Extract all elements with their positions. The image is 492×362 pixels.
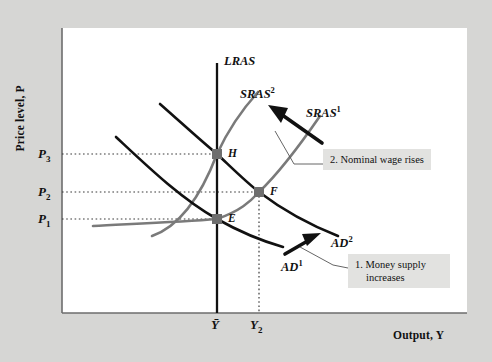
- point-marker-h: [212, 149, 222, 159]
- point-label-e: E: [228, 213, 236, 225]
- y-tick-p1: P1: [38, 212, 50, 229]
- y-tick-p3: P3: [38, 147, 50, 164]
- x-tick-y2: Y2: [250, 318, 262, 335]
- annotation-money-supply-line1: 1. Money supply: [355, 259, 426, 270]
- curve-label-ad2: AD2: [331, 235, 353, 250]
- curve-label-sras2: SRAS2: [240, 86, 275, 101]
- point-label-h: H: [228, 148, 237, 160]
- y-tick-p2: P2: [38, 185, 50, 202]
- x-axis-title: Output, Y: [393, 330, 444, 342]
- figure-container: Price level, P Output, Y P3 P2 P1 Ȳ Y2 …: [0, 0, 492, 362]
- curve-sras2: [152, 92, 258, 236]
- shift-arrow-ad: [285, 233, 321, 254]
- point-marker-f: [254, 187, 264, 197]
- curve-label-ad1: AD1: [281, 259, 303, 274]
- annotation-nominal-wage: 2. Nominal wage rises: [323, 149, 431, 170]
- curve-label-sras1: SRAS1: [306, 105, 341, 120]
- annotation-money-supply-line2: increases: [355, 271, 443, 284]
- x-tick-ybar: Ȳ: [211, 318, 219, 331]
- y-axis-title: Price level, P: [15, 85, 27, 151]
- annotation-nominal-wage-text: 2. Nominal wage rises: [330, 154, 424, 165]
- leader-line-nominal-wage: [275, 131, 323, 164]
- annotation-money-supply: 1. Money supply increases: [348, 254, 450, 288]
- curve-label-lras: LRAS: [224, 55, 255, 68]
- point-marker-e: [212, 214, 222, 224]
- curve-ad2: [160, 104, 338, 236]
- point-label-f: F: [270, 186, 278, 198]
